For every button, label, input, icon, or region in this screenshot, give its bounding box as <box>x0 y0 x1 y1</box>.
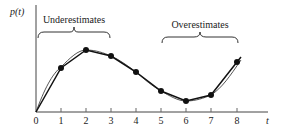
point <box>234 59 240 65</box>
x-axis-label: t <box>266 115 269 126</box>
x-tick-labels: 0 1 2 3 4 5 6 7 8 <box>34 115 240 126</box>
tick-label: 5 <box>159 115 164 126</box>
tick-label: 1 <box>59 115 64 126</box>
overestimates-brace <box>162 32 238 43</box>
point <box>133 69 139 75</box>
tick-label: 3 <box>109 115 114 126</box>
tick-label: 4 <box>134 115 139 126</box>
data-points <box>58 47 240 104</box>
y-axis-label: p(t) <box>9 6 25 18</box>
overestimates-label: Overestimates <box>171 19 228 30</box>
tick-label: 6 <box>184 115 189 126</box>
linear-approximation <box>36 50 241 112</box>
x-ticks <box>61 108 237 112</box>
point <box>83 47 89 53</box>
point <box>208 92 214 98</box>
chart-figure: 0 1 2 3 4 5 6 7 8 t p(t) Underestimates … <box>0 0 283 130</box>
point <box>108 53 114 59</box>
tick-label: 7 <box>209 115 214 126</box>
tick-label: 0 <box>34 115 39 126</box>
point <box>58 65 64 71</box>
chart-svg: 0 1 2 3 4 5 6 7 8 t p(t) Underestimates … <box>0 0 283 130</box>
underestimates-label: Underestimates <box>43 14 105 25</box>
underestimates-brace <box>38 27 110 38</box>
tick-label: 2 <box>84 115 89 126</box>
tick-label: 8 <box>235 115 240 126</box>
point <box>183 98 189 104</box>
point <box>158 88 164 94</box>
smooth-curve <box>36 50 241 112</box>
